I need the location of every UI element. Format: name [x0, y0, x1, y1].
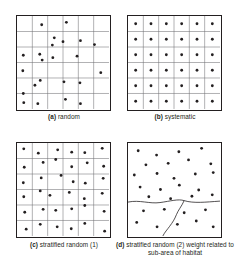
panel-a-random [16, 15, 111, 111]
panel-d-stratified-random-2 [127, 142, 222, 238]
panel-b-tag: (b) [155, 113, 163, 120]
panel-a-plot [16, 15, 111, 111]
panel-c-svg [17, 143, 109, 236]
sampling-designs-figure: (a) random (b) systematic (c) stratified… [0, 0, 238, 270]
panel-c-caption: (c) stratified random (1) [0, 241, 128, 249]
panel-a-label: random [58, 113, 80, 120]
panel-d-svg [128, 143, 220, 236]
panel-d-plot [127, 142, 222, 238]
panel-c-plot [16, 142, 111, 238]
panel-b-caption: (b) systematic [112, 113, 238, 121]
panel-c-tag: (c) [30, 241, 38, 248]
panel-d-label: stratified random (2) weight related to … [126, 241, 234, 256]
panel-d-caption: (d) stratified random (2) weight related… [112, 241, 238, 257]
panel-c-stratified-random-1 [16, 142, 111, 238]
panel-c-label: stratified random (1) [40, 241, 98, 248]
panel-b-label: systematic [165, 113, 196, 120]
panel-a-tag: (a) [48, 113, 56, 120]
panel-d-tag: (d) [116, 241, 124, 248]
panel-b-plot [127, 15, 222, 111]
panel-a-svg [17, 16, 109, 109]
panel-b-systematic [127, 15, 222, 111]
panel-a-caption: (a) random [0, 113, 128, 121]
panel-b-svg [128, 16, 220, 109]
